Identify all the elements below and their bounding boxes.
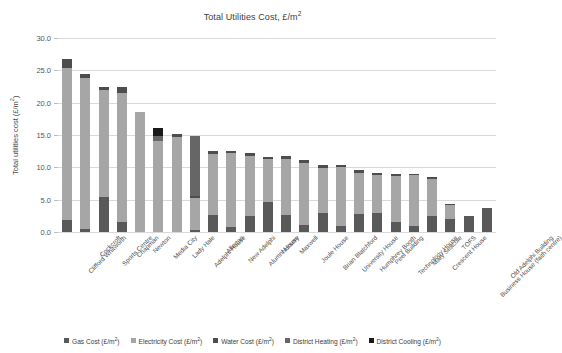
bar-segment[interactable] bbox=[427, 179, 437, 216]
bar-column[interactable] bbox=[318, 165, 328, 232]
bar-segment[interactable] bbox=[208, 154, 218, 215]
bar-column[interactable] bbox=[263, 157, 273, 232]
y-axis-tick-label: 20.0 bbox=[36, 98, 51, 107]
bar-segment[interactable] bbox=[226, 227, 236, 232]
bar-segment[interactable] bbox=[80, 229, 90, 232]
bar-segment[interactable] bbox=[299, 163, 309, 225]
bar-segment[interactable] bbox=[117, 93, 127, 222]
y-axis-tick-label: 15.0 bbox=[36, 131, 51, 140]
bar-segment[interactable] bbox=[172, 137, 182, 232]
bar-segment[interactable] bbox=[409, 175, 419, 226]
y-axis-tick-label: 10.0 bbox=[36, 163, 51, 172]
x-axis-tick-label: Allerton bbox=[224, 234, 244, 254]
bar-segment[interactable] bbox=[190, 198, 200, 230]
bar-segment[interactable] bbox=[336, 167, 346, 226]
bar-column[interactable] bbox=[372, 173, 382, 232]
bar-segment[interactable] bbox=[153, 141, 163, 232]
bar-segment[interactable] bbox=[409, 226, 419, 232]
x-axis-tick-label: Old Adelphi Building bbox=[509, 234, 554, 279]
bar-segment[interactable] bbox=[62, 220, 72, 232]
bar-column[interactable] bbox=[80, 74, 90, 232]
bar-column[interactable] bbox=[409, 174, 419, 232]
bar-segment[interactable] bbox=[482, 208, 492, 232]
gridline bbox=[58, 232, 496, 233]
bar-column[interactable] bbox=[226, 151, 236, 232]
bar-segment[interactable] bbox=[190, 230, 200, 232]
legend-item[interactable]: District Cooling (£/m2) bbox=[369, 336, 441, 345]
bar-column[interactable] bbox=[62, 59, 72, 232]
x-axis-tick-label: Business House (faith centre) bbox=[498, 234, 562, 298]
legend-label: Electricity Cost (£/m2) bbox=[139, 336, 203, 345]
bar-column[interactable] bbox=[354, 170, 364, 232]
bar-segment[interactable] bbox=[245, 156, 255, 217]
legend-item[interactable]: Gas Cost (£/m2) bbox=[64, 336, 120, 345]
bar-segment[interactable] bbox=[226, 153, 236, 227]
bar-column[interactable] bbox=[391, 174, 401, 232]
y-axis-tick-label: 0.0 bbox=[41, 228, 51, 237]
bar-column[interactable] bbox=[135, 112, 145, 232]
bar-segment[interactable] bbox=[391, 222, 401, 232]
bar-column[interactable] bbox=[427, 177, 437, 232]
bar-segment[interactable] bbox=[208, 215, 218, 232]
y-axis-tick-label: 25.0 bbox=[36, 66, 51, 75]
bar-column[interactable] bbox=[299, 160, 309, 232]
bar-column[interactable] bbox=[208, 151, 218, 232]
bar-segment[interactable] bbox=[135, 112, 145, 232]
plot-area: 0.05.010.015.020.025.030.0 bbox=[58, 38, 496, 232]
x-axis-tick-label: Joule House bbox=[320, 234, 350, 264]
bar-segment[interactable] bbox=[445, 205, 455, 219]
bar-segment[interactable] bbox=[354, 173, 364, 214]
bar-column[interactable] bbox=[117, 87, 127, 232]
bar-segment[interactable] bbox=[263, 159, 273, 202]
bar-segment[interactable] bbox=[263, 202, 273, 232]
bar-segment[interactable] bbox=[190, 136, 200, 196]
bar-segment[interactable] bbox=[299, 225, 309, 232]
bar-segment[interactable] bbox=[318, 213, 328, 232]
bar-segment[interactable] bbox=[99, 197, 109, 232]
x-axis-tick-label: Maxwell bbox=[298, 234, 319, 255]
bar-segment[interactable] bbox=[354, 214, 364, 232]
bar-segment[interactable] bbox=[464, 216, 474, 232]
bar-column[interactable] bbox=[172, 134, 182, 232]
bar-segment[interactable] bbox=[281, 215, 291, 232]
bar-segment[interactable] bbox=[62, 59, 72, 69]
legend-item[interactable]: Electricity Cost (£/m2) bbox=[131, 336, 203, 345]
bar-segment[interactable] bbox=[372, 175, 382, 213]
bar-column[interactable] bbox=[336, 165, 346, 232]
bar-segment[interactable] bbox=[427, 216, 437, 232]
bar-segment[interactable] bbox=[372, 213, 382, 232]
bar-column[interactable] bbox=[281, 156, 291, 232]
legend-swatch-icon bbox=[131, 338, 136, 343]
bar-segment[interactable] bbox=[391, 176, 401, 222]
legend-swatch-icon bbox=[64, 338, 69, 343]
bar-segment[interactable] bbox=[245, 216, 255, 232]
legend-item[interactable]: District Heating (£/m2) bbox=[285, 336, 358, 345]
legend-label: District Cooling (£/m2) bbox=[377, 336, 441, 345]
bar-segment[interactable] bbox=[117, 222, 127, 232]
bar-column[interactable] bbox=[245, 153, 255, 232]
y-axis-tick-label: 30.0 bbox=[36, 34, 51, 43]
x-axis-labels: Clifford WhitworthCockcroftSports Centre… bbox=[58, 234, 496, 314]
legend-item[interactable]: Water Cost (£/m2) bbox=[213, 336, 274, 345]
bar-segment[interactable] bbox=[281, 159, 291, 215]
y-axis-label: Total utilities cost (£/m2) bbox=[8, 38, 22, 232]
bar-segment[interactable] bbox=[153, 128, 163, 136]
bar-column[interactable] bbox=[190, 136, 200, 232]
bars-group bbox=[58, 38, 496, 232]
bar-segment[interactable] bbox=[99, 90, 109, 197]
bar-segment[interactable] bbox=[80, 78, 90, 229]
bar-column[interactable] bbox=[445, 204, 455, 232]
bar-segment[interactable] bbox=[445, 219, 455, 232]
bar-column[interactable] bbox=[464, 216, 474, 232]
chart-title: Total Utilities Cost, £/m2 bbox=[0, 10, 505, 22]
bar-column[interactable] bbox=[153, 128, 163, 232]
bar-segment[interactable] bbox=[336, 226, 346, 232]
bar-column[interactable] bbox=[99, 87, 109, 232]
bar-column[interactable] bbox=[482, 208, 492, 232]
legend-swatch-icon bbox=[285, 338, 290, 343]
bar-segment[interactable] bbox=[318, 168, 328, 213]
bar-segment[interactable] bbox=[62, 68, 72, 220]
legend-label: District Heating (£/m2) bbox=[293, 336, 358, 345]
legend-swatch-icon bbox=[213, 338, 218, 343]
